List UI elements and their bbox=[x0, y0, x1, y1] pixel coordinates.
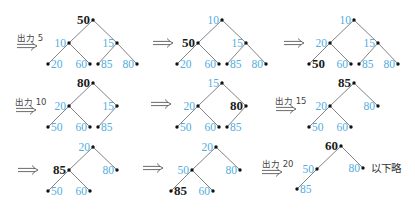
node-value: 50 bbox=[77, 12, 90, 27]
node-value: 60 bbox=[76, 185, 88, 197]
node-value: 20 bbox=[316, 37, 328, 49]
arrow-caption: 出力 20 bbox=[262, 159, 294, 169]
node-dot bbox=[295, 187, 298, 190]
node-value: 85 bbox=[338, 75, 352, 90]
step-arrow-9: 出力 20 bbox=[262, 159, 294, 177]
node-dot bbox=[115, 168, 118, 171]
node-value: 50 bbox=[303, 163, 315, 175]
step-arrow-6: 出力 15 bbox=[275, 96, 307, 114]
node-dot bbox=[46, 62, 49, 65]
heap-tree-step-2: 10 50 15 20 60 85 80 bbox=[175, 14, 267, 70]
node-dot bbox=[349, 125, 352, 128]
node-dot bbox=[67, 104, 70, 107]
node-dot bbox=[88, 189, 91, 192]
node-dot bbox=[196, 104, 199, 107]
node-dot bbox=[307, 125, 310, 128]
node-dot bbox=[357, 62, 360, 65]
node-value: 20 bbox=[79, 141, 91, 153]
double-arrow-icon bbox=[151, 100, 171, 109]
node-value: 85 bbox=[230, 58, 242, 70]
node-dot bbox=[46, 125, 49, 128]
arrow-caption: 出力 5 bbox=[17, 33, 43, 43]
node-dot bbox=[115, 104, 118, 107]
node-dot bbox=[307, 62, 310, 65]
node-value: 50 bbox=[51, 121, 63, 133]
heap-tree-step-7: 20 85 80 50 60 bbox=[46, 141, 118, 197]
node-value: 15 bbox=[232, 37, 244, 49]
node-value: 50 bbox=[312, 56, 325, 71]
node-dot bbox=[91, 81, 94, 84]
node-dot bbox=[88, 62, 91, 65]
heap-sort-diagram: 出力 5 出力 10 出力 15 bbox=[0, 0, 415, 210]
node-dot bbox=[115, 41, 118, 44]
node-value: 85 bbox=[101, 121, 113, 133]
step-arrow-3 bbox=[284, 39, 304, 48]
node-value: 20 bbox=[55, 100, 67, 112]
omitted-note: 以下略 bbox=[371, 162, 402, 174]
node-value: 60 bbox=[205, 58, 217, 70]
node-dot bbox=[135, 62, 138, 65]
heap-tree-step-6: 85 20 80 50 60 bbox=[307, 75, 379, 133]
node-dot bbox=[244, 41, 247, 44]
node-value: 20 bbox=[51, 58, 63, 70]
double-arrow-icon bbox=[153, 39, 173, 48]
node-dot bbox=[339, 144, 342, 147]
node-dot bbox=[91, 145, 94, 148]
node-dot bbox=[211, 189, 214, 192]
heap-tree-step-3: 10 20 15 50 60 85 80 bbox=[307, 14, 399, 71]
node-value: 85 bbox=[300, 183, 312, 195]
node-dot bbox=[46, 189, 49, 192]
node-dot bbox=[220, 81, 223, 84]
node-dot bbox=[67, 168, 70, 171]
node-dot bbox=[96, 125, 99, 128]
node-dot bbox=[349, 62, 352, 65]
node-value: 20 bbox=[202, 141, 214, 153]
step-arrow-5 bbox=[151, 100, 171, 109]
node-dot bbox=[190, 168, 193, 171]
heap-tree-step-4: 80 20 15 50 60 85 bbox=[46, 75, 118, 133]
node-value: 80 bbox=[364, 100, 376, 112]
double-arrow-icon bbox=[18, 166, 38, 175]
step-arrow-2 bbox=[153, 39, 173, 48]
node-value: 80 bbox=[123, 58, 135, 70]
node-dot bbox=[376, 41, 379, 44]
node-value: 85 bbox=[101, 58, 113, 70]
node-dot bbox=[396, 62, 399, 65]
node-value: 80 bbox=[384, 58, 396, 70]
node-value: 60 bbox=[76, 58, 88, 70]
node-dot bbox=[217, 125, 220, 128]
node-value: 80 bbox=[252, 58, 264, 70]
node-value: 10 bbox=[208, 14, 220, 26]
node-value: 15 bbox=[208, 77, 220, 89]
node-dot bbox=[352, 18, 355, 21]
node-value: 15 bbox=[103, 37, 115, 49]
node-dot bbox=[238, 168, 241, 171]
node-value: 80 bbox=[103, 164, 115, 176]
node-value: 15 bbox=[364, 37, 376, 49]
node-dot bbox=[328, 104, 331, 107]
node-dot bbox=[217, 62, 220, 65]
node-value: 20 bbox=[180, 58, 192, 70]
node-value: 60 bbox=[199, 185, 211, 197]
node-dot bbox=[91, 18, 94, 21]
step-arrow-1: 出力 5 bbox=[17, 33, 43, 51]
node-value: 50 bbox=[180, 121, 192, 133]
heap-tree-step-8: 20 50 80 85 60 bbox=[169, 141, 241, 198]
node-dot bbox=[315, 167, 318, 170]
step-arrow-7 bbox=[18, 166, 38, 175]
node-value: 85 bbox=[174, 183, 188, 198]
node-value: 10 bbox=[340, 14, 352, 26]
double-arrow-icon bbox=[143, 164, 163, 173]
node-dot bbox=[67, 41, 70, 44]
node-dot bbox=[214, 145, 217, 148]
node-dot bbox=[225, 125, 228, 128]
node-value: 20 bbox=[184, 100, 196, 112]
node-dot bbox=[175, 62, 178, 65]
node-dot bbox=[264, 62, 267, 65]
node-dot bbox=[328, 41, 331, 44]
node-value: 15 bbox=[103, 100, 115, 112]
step-arrow-8 bbox=[143, 164, 163, 173]
heap-tree-step-5: 15 20 80 50 60 85 bbox=[175, 77, 247, 133]
node-dot bbox=[88, 125, 91, 128]
node-value: 20 bbox=[316, 100, 328, 112]
